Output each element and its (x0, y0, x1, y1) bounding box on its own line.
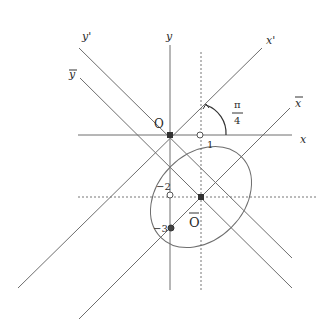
x-bar-axis (79, 108, 290, 319)
angle-arc (206, 105, 226, 135)
new-origin-label: O (189, 215, 200, 230)
tick-y-minus3-label: −3 (153, 223, 168, 234)
angle-denominator: 4 (234, 115, 240, 126)
x-label: x (300, 133, 307, 146)
y-bar-axis (80, 78, 292, 288)
new-origin-point (198, 194, 204, 200)
x-prime-label: x' (266, 34, 275, 47)
origin-point (167, 132, 173, 138)
tick-y-minus2-point (167, 192, 173, 198)
y-prime-label: y' (81, 30, 91, 43)
x-prime-axis (18, 48, 262, 288)
y-prime-axis (79, 48, 292, 258)
angle-numerator: π (234, 99, 241, 110)
origin-label: O (154, 117, 164, 131)
y-label: y (165, 30, 173, 43)
tick-y-minus3-point (168, 225, 174, 231)
tick-x1-point (197, 132, 203, 138)
x-bar-label: x (295, 97, 302, 110)
tick-x1-label: 1 (207, 139, 213, 150)
diagram-canvas: y' y x' y x x O 1 −2 −3 O π 4 (0, 0, 333, 334)
tick-y-minus2-label: −2 (156, 181, 171, 192)
